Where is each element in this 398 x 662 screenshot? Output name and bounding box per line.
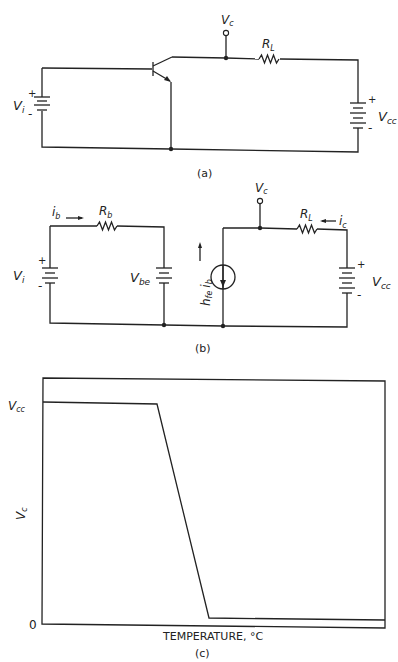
- label-vi-b: Vi: [13, 268, 25, 285]
- wire-right-top: [280, 59, 358, 103]
- label-vc-a: Vc: [221, 13, 234, 28]
- battery-vbe-icon: [156, 268, 172, 283]
- circuit-b: Rb ib + - Vi Vbe: [13, 181, 391, 355]
- y-tick-zero: 0: [29, 618, 37, 632]
- battery-vi-icon: [34, 97, 50, 110]
- wire-b-top-right: [117, 226, 164, 268]
- vi-plus: +: [28, 88, 36, 99]
- terminal-vc-icon: [223, 30, 228, 35]
- wire-left-bottom: [42, 111, 171, 149]
- label-rl-b: RL: [300, 207, 313, 223]
- battery-vcc-icon: [350, 103, 366, 128]
- vcc-b-plus: +: [357, 259, 365, 270]
- wire-base: [42, 68, 152, 69]
- wire-b-right-bottom: [223, 293, 347, 327]
- y-axis-label: Vc: [14, 507, 29, 520]
- label-vc-b: Vc: [255, 181, 268, 196]
- label-vcc-b: Vcc: [372, 274, 391, 291]
- wire-collector: [172, 57, 226, 58]
- wire-collector-rl: [226, 58, 259, 59]
- label-vbe: Vbe: [130, 270, 151, 287]
- chart-c: Vcc 0 Vc TEMPERATURE, °C (c): [8, 378, 385, 660]
- vi-b-minus: -: [38, 279, 42, 293]
- battery-vi-b-icon: [42, 268, 58, 283]
- vi-b-plus: +: [38, 255, 46, 266]
- label-ic: ic: [339, 214, 347, 230]
- wire-b-to-rl: [260, 228, 297, 229]
- wire-b-bottom-left: [50, 283, 164, 325]
- arrow-ic-icon: [320, 219, 336, 223]
- wire-right-bottom: [171, 128, 358, 152]
- label-rl-a: RL: [262, 37, 275, 53]
- transistor-npn-icon: [153, 57, 172, 149]
- current-source-arrow-icon: [220, 280, 226, 287]
- y-tick-vcc: Vcc: [8, 399, 26, 414]
- battery-vcc-b-icon: [339, 268, 355, 293]
- circuit-a: + - Vi Vc RL +: [13, 13, 397, 180]
- resistor-rl-b-icon: [297, 225, 317, 233]
- resistor-rb-icon: [97, 222, 117, 230]
- label-ib: ib: [52, 205, 60, 221]
- caption-b: (b): [195, 342, 211, 355]
- label-rb: Rb: [99, 204, 112, 220]
- vcc-minus: -: [368, 121, 372, 135]
- chart-frame: [42, 378, 385, 628]
- label-source: hfeib: [199, 279, 214, 306]
- vcc-b-minus: -: [357, 288, 361, 302]
- resistor-rl-icon: [259, 55, 279, 63]
- label-vcc-a: Vcc: [378, 109, 397, 126]
- chart-line-vc: [43, 402, 385, 620]
- terminal-vc-b-icon: [257, 198, 262, 203]
- x-axis-label: TEMPERATURE, °C: [162, 630, 263, 643]
- caption-a: (a): [197, 167, 212, 180]
- arrow-source-current-icon: [198, 242, 202, 261]
- caption-c: (c): [195, 647, 210, 660]
- arrow-ib-icon: [66, 216, 84, 220]
- label-vi: Vi: [13, 98, 25, 115]
- figure-canvas: + - Vi Vc RL +: [0, 0, 398, 662]
- wire-b-bottom-mid: [164, 325, 223, 326]
- vi-minus: -: [28, 107, 32, 121]
- vcc-plus: +: [368, 94, 376, 105]
- wire-b-right-top: [317, 229, 347, 268]
